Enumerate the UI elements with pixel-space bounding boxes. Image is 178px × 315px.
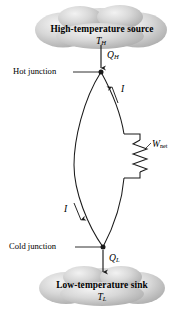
current-label-right: I <box>121 84 124 94</box>
heat-out-label: QL <box>109 253 120 264</box>
source-temperature-label: TH <box>96 36 106 47</box>
thermoelectric-diagram <box>0 0 178 315</box>
hot-junction-node <box>99 70 104 75</box>
right-conductor-lower-arc <box>103 178 124 247</box>
hot-junction-label: Hot junction <box>13 67 56 76</box>
heat-in-label: QH <box>107 50 119 61</box>
current-label-left: I <box>64 204 67 214</box>
work-label: Wnet <box>152 139 168 150</box>
work-leader <box>145 143 151 149</box>
heat-in-subscript: H <box>114 53 119 60</box>
figure-canvas: High-temperature source TH QH Hot juncti… <box>0 0 178 315</box>
heat-out-symbol: Q <box>109 252 116 263</box>
sink-temperature-subscript: L <box>103 295 107 302</box>
sink-temperature-label: TL <box>97 292 106 303</box>
left-conductor-arc <box>74 72 103 247</box>
source-cloud-label: High-temperature source <box>50 25 153 34</box>
cold-junction-label: Cold junction <box>9 242 56 251</box>
current-arrow-left <box>74 203 81 220</box>
right-conductor-upper-lead <box>124 134 140 140</box>
sink-cloud-label: Low-temperature sink <box>56 281 148 290</box>
resistor-zigzag <box>133 140 147 172</box>
work-subscript: net <box>160 142 168 149</box>
heat-out-subscript: L <box>116 256 120 263</box>
right-conductor-lower-lead <box>124 172 140 178</box>
right-conductor-upper-arc <box>101 72 124 134</box>
cold-junction-node <box>101 245 106 250</box>
work-symbol: W <box>152 138 160 149</box>
source-temperature-subscript: H <box>101 39 106 46</box>
heat-in-symbol: Q <box>107 49 114 60</box>
